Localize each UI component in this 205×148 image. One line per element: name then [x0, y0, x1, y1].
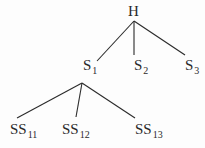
node-ss13-label: SS — [135, 121, 152, 137]
node-s3: S3 — [185, 58, 199, 73]
node-ss12-label: SS — [62, 121, 79, 137]
node-s3-subscript: 3 — [194, 65, 199, 76]
node-ss11-label: SS — [10, 121, 27, 137]
node-ss11-subscript: 11 — [28, 129, 38, 140]
node-s2-label: S — [134, 57, 142, 73]
node-s1: S1 — [83, 58, 97, 73]
node-s3-label: S — [185, 57, 193, 73]
edge-s1-ss13 — [82, 83, 135, 118]
edge-h-s3 — [134, 21, 185, 55]
node-s1-subscript: 1 — [92, 65, 97, 76]
node-h: H — [128, 4, 139, 19]
node-s2: S2 — [134, 58, 148, 73]
edge-s1-ss11 — [17, 83, 82, 118]
edge-s1-ss12 — [76, 83, 82, 117]
node-ss12-subscript: 12 — [80, 129, 90, 140]
node-ss13: SS13 — [135, 122, 163, 137]
edge-h-s1 — [97, 21, 134, 61]
node-s2-subscript: 2 — [143, 65, 148, 76]
tree-diagram: H S1 S2 S3 SS11 SS12 SS13 — [0, 0, 205, 148]
node-ss12: SS12 — [62, 122, 90, 137]
node-ss11: SS11 — [10, 122, 37, 137]
node-ss13-subscript: 13 — [153, 129, 163, 140]
node-h-label: H — [128, 3, 139, 19]
node-s1-label: S — [83, 57, 91, 73]
